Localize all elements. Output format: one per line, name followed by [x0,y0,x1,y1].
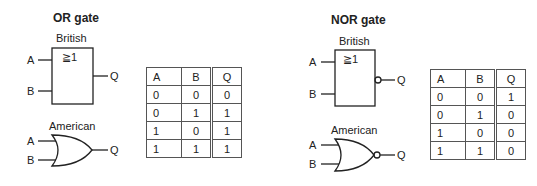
cell: 1 [496,88,526,106]
or-american-symbol [52,135,92,166]
th-b: B [182,68,212,86]
or-gate-title: OR gate [53,11,99,25]
cell: 1 [466,106,496,124]
nor-am-output-q: Q [397,149,406,161]
cell: 1 [212,122,242,140]
cell: 0 [496,142,526,160]
cell: 0 [431,88,466,106]
cell: 1 [147,140,182,158]
cell: 1 [431,124,466,142]
cell: 1 [466,142,496,160]
or-am-output-q: Q [110,144,119,156]
cell: 0 [182,122,212,140]
or-truth-table: ABQ 000 011 101 111 [146,67,242,158]
cell: 1 [431,142,466,160]
cell: 0 [212,86,242,104]
nor-american-label: American [331,124,377,136]
th-a: A [147,68,182,86]
cell: 0 [147,86,182,104]
or-input-b: B [27,85,34,97]
or-british-label: British [56,32,87,44]
nor-input-a: A [309,56,316,68]
nor-am-input-a: A [309,139,316,151]
cell: 0 [466,124,496,142]
nor-british-symbol: ≧1 [343,53,358,66]
or-output-q: Q [110,70,119,82]
nor-output-q: Q [397,74,406,86]
nor-am-input-b: B [309,158,316,170]
nor-truth-table: ABQ 001 010 100 110 [430,69,526,160]
th-b: B [466,70,496,88]
nor-input-b: B [309,88,316,100]
th-q: Q [212,68,242,86]
cell: 1 [212,140,242,158]
nor-british-label: British [339,35,370,47]
or-british-symbol: ≧1 [62,51,77,64]
cell: 1 [212,104,242,122]
cell: 0 [496,124,526,142]
or-am-input-a: A [27,135,34,147]
cell: 0 [431,106,466,124]
cell: 0 [147,104,182,122]
cell: 1 [147,122,182,140]
cell: 0 [466,88,496,106]
cell: 0 [182,86,212,104]
nor-american-symbol [335,139,374,171]
cell: 0 [496,106,526,124]
or-am-input-b: B [27,154,34,166]
th-a: A [431,70,466,88]
cell: 1 [182,140,212,158]
or-american-label: American [49,120,95,132]
nor-gate-title: NOR gate [331,13,386,27]
or-input-a: A [27,54,34,66]
cell: 1 [182,104,212,122]
th-q: Q [496,70,526,88]
